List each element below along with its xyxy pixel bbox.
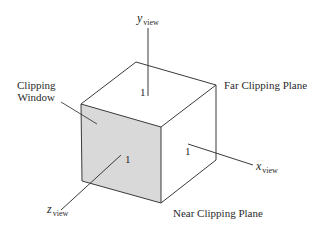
view-volume-diagram (0, 0, 324, 230)
x-view-label: xview (256, 160, 278, 177)
x-axis-line (188, 144, 253, 165)
clipping-window-label: Clipping Window (17, 79, 56, 103)
near-clipping-plane-label: Near Clipping Plane (173, 207, 263, 219)
x-axis-subscript: view (262, 166, 278, 175)
z-axis-symbol: z (47, 202, 52, 216)
z-unit-label: 1 (125, 153, 131, 165)
y-unit-label: 1 (140, 86, 146, 98)
z-axis-subscript: view (53, 209, 69, 218)
y-axis-subscript: view (143, 18, 159, 27)
y-axis-symbol: y (137, 11, 142, 25)
z-view-label: zview (47, 203, 68, 220)
x-axis-symbol: x (256, 159, 261, 173)
clipping-window-line1: Clipping (17, 79, 56, 91)
y-view-label: yview (137, 12, 159, 29)
near-clipping-face (81, 104, 161, 203)
clipping-window-line2: Window (17, 91, 56, 103)
far-clipping-plane-label: Far Clipping Plane (224, 79, 307, 91)
x-unit-label: 1 (185, 145, 191, 157)
